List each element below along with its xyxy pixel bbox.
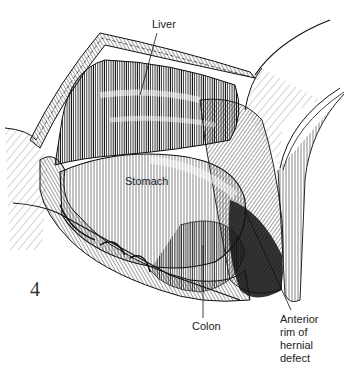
label-anterior-rim: Anterior rim of hernial defect (280, 313, 319, 365)
label-stomach: Stomach (125, 175, 168, 188)
figure-number: 4 (30, 278, 40, 301)
label-colon: Colon (192, 320, 221, 333)
label-liver: Liver (152, 18, 176, 31)
